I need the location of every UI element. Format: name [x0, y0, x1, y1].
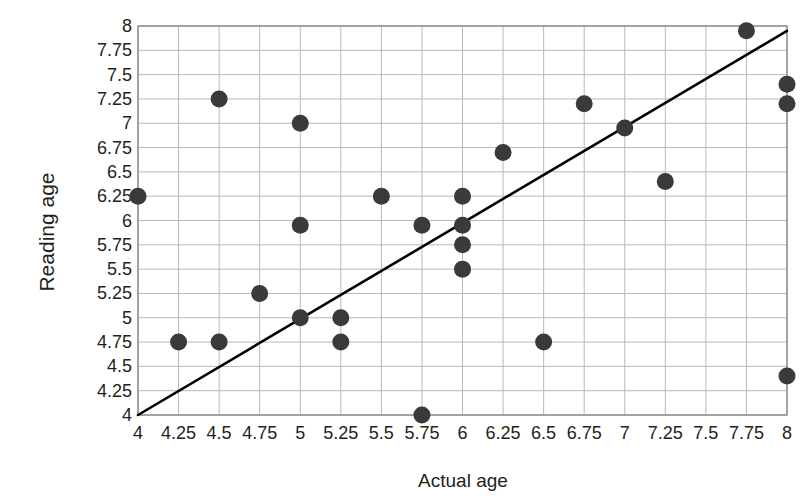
data-point [779, 76, 796, 93]
data-point [170, 334, 187, 351]
data-point [413, 407, 430, 424]
plot-area [0, 0, 804, 503]
data-point [454, 236, 471, 253]
data-point [373, 188, 390, 205]
data-point [616, 120, 633, 137]
data-point [454, 217, 471, 234]
data-point [292, 309, 309, 326]
data-point [211, 334, 228, 351]
data-point [292, 217, 309, 234]
data-point [251, 285, 268, 302]
data-point [495, 144, 512, 161]
scatter-chart: Reading age Actual age 87.757.57.2576.75… [0, 0, 804, 503]
data-point [211, 90, 228, 107]
data-point [779, 368, 796, 385]
data-point [738, 22, 755, 39]
data-point [779, 95, 796, 112]
data-point [454, 261, 471, 278]
data-point [332, 309, 349, 326]
data-point [292, 115, 309, 132]
data-point [576, 95, 593, 112]
data-point [454, 188, 471, 205]
data-point [535, 334, 552, 351]
data-point [332, 334, 349, 351]
data-point [413, 217, 430, 234]
data-point [657, 173, 674, 190]
data-point [130, 188, 147, 205]
